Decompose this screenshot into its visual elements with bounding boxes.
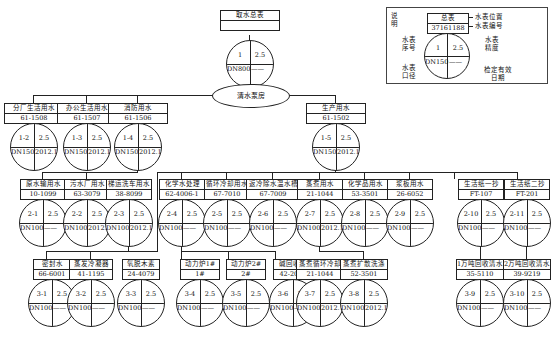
meter-label: 污水厂用水 63-3079	[64, 179, 110, 200]
meter-date: ——	[228, 225, 248, 232]
meter-size: DN800	[227, 66, 250, 73]
meter-label: 动力炉2# 2#	[226, 259, 266, 280]
meter-label: 浆板用水 26-6052	[387, 179, 433, 200]
meter-label: 动力炉1# 1#	[180, 259, 220, 280]
meter-accuracy: 2.5	[321, 211, 339, 218]
meter-number: 39-9219	[504, 270, 550, 279]
meter-location: 浆板用水	[388, 180, 432, 190]
connector	[46, 251, 158, 252]
meter-location: 生产用水	[307, 104, 365, 114]
meter-circle: 1 2.5 DN800 ——	[226, 40, 274, 88]
meter-location: 1万吨回收清水	[457, 260, 503, 270]
meter-label: 1万吨回收清水 35-5110	[456, 259, 504, 280]
meter-size: DN100	[20, 225, 43, 232]
meter-number: 38-8099	[107, 190, 151, 199]
meter-seq: 3-8	[345, 291, 363, 298]
meter-number: 66-6001	[34, 270, 70, 279]
meter-circle: 1-2 2.5 DN150 2012.10.25	[10, 123, 58, 171]
meter-label: 生产用水 61-1502	[306, 103, 366, 124]
meter-label: 梯运洗车用水 38-8099	[106, 179, 152, 200]
meter-location: 取水总表	[221, 11, 279, 21]
connector	[454, 172, 455, 179]
meter-size: DN150	[115, 149, 138, 156]
meter-size: DN100	[341, 305, 364, 312]
meter-date: ——	[366, 225, 386, 232]
meter-accuracy: 2.5	[481, 291, 499, 298]
meter-number: 10-1099	[21, 190, 65, 199]
meter-number: 26-6052	[388, 190, 432, 199]
meter-location: 梯运洗车用水	[107, 180, 151, 190]
meter-size: DN100	[118, 305, 141, 312]
meter-number: FT-107	[459, 190, 503, 199]
connector	[272, 172, 273, 179]
meter-seq: 1-2	[15, 135, 33, 142]
meter-label: 化学品用水 53-3501	[342, 179, 388, 200]
meter-accuracy: 2.5	[201, 291, 219, 298]
meter-seq: 3-4	[181, 291, 199, 298]
legend-box: 说明 总表 37161188 1 2.5 DN150 —— 水表位置 水表编号 …	[386, 7, 548, 84]
meter-seq: 1	[429, 45, 447, 52]
meter-circle: 1-5 2.5 DN150 2012.10.25	[312, 123, 360, 171]
water-meter-network-diagram: 取水总表 1 2.5 DN800 —— 清水泵房 分厂生活用水 61-1508 …	[0, 0, 559, 337]
meter-seq: 2-10	[462, 211, 480, 218]
meter-circle: 3-8 2.5 DN100 2012.10.26	[340, 279, 388, 327]
meter-number	[221, 21, 279, 30]
meter-number: 24-4079	[123, 270, 159, 279]
meter-size: DN100	[270, 305, 293, 312]
meter-date: 2012.10.21	[321, 225, 341, 232]
meter-circle: 2-7 2.5 DN100 2012.10.21	[296, 199, 344, 247]
meter-date: 2012.10.21	[130, 225, 150, 232]
meter-number: 21-1044	[298, 190, 342, 199]
meter-size: DN100	[68, 305, 91, 312]
meter-size: DN100	[504, 225, 527, 232]
meter-accuracy: 2.5	[411, 211, 429, 218]
connector	[86, 95, 87, 103]
meter-circle: 2-9 2.5 DN100 ——	[386, 199, 434, 247]
meter-accuracy: 2.5	[44, 211, 62, 218]
meter-label: 蒸煮扩散洗涤 52-3501	[340, 259, 388, 280]
meter-date: ——	[247, 305, 267, 312]
meter-date: 2012.10.25	[35, 149, 55, 156]
meter-location: 原水输用水	[21, 180, 65, 190]
legend-size-note: 水表口径	[402, 64, 416, 80]
meter-accuracy: 2.5	[365, 291, 383, 298]
connector	[181, 172, 182, 179]
meter-number: 21-1044	[297, 270, 343, 279]
legend-seq-note: 水表序号	[402, 36, 416, 52]
meter-size: DN150	[313, 149, 336, 156]
connector	[86, 172, 87, 179]
connector	[228, 251, 229, 259]
meter-circle: 3-5 2.5 DN100 ——	[222, 279, 270, 327]
meter-size: DN100	[159, 225, 182, 232]
connector	[319, 251, 363, 252]
meter-label: 化学水处理 62-4006-1	[159, 179, 205, 200]
connector	[42, 172, 138, 173]
meter-circle: 3-4 2.5 DN100 ——	[176, 279, 224, 327]
meter-location: 2万吨回收清水	[504, 260, 550, 270]
meter-label: 氧脱木素 24-4079	[122, 259, 160, 280]
legend-verify-date-note: 检定有效日期	[483, 66, 513, 82]
meter-number: 67-7009	[247, 190, 299, 199]
meter-number: 41-1195	[70, 270, 112, 279]
meter-accuracy: 2.5	[366, 211, 384, 218]
meter-size: DN150	[425, 59, 448, 66]
meter-number: 2#	[227, 270, 265, 279]
meter-number: FT-201	[505, 190, 549, 199]
meter-seq: 3-9	[461, 291, 479, 298]
meter-seq: 2-8	[346, 211, 364, 218]
meter-circle: 3-3 2.5 DN100 ——	[117, 279, 165, 327]
meter-accuracy: 2.5	[92, 291, 110, 298]
meter-accuracy: 2.5	[35, 135, 53, 142]
meter-size: DN100	[29, 305, 52, 312]
meter-size: DN150	[64, 149, 87, 156]
connector	[363, 251, 364, 259]
connector	[137, 95, 138, 103]
meter-seq: 2-7	[301, 211, 319, 218]
meter-accuracy: 2.5	[228, 211, 246, 218]
pump-house-node[interactable]: 清水泵房	[212, 84, 290, 108]
meter-circle: 2-8 2.5 DN100 ——	[341, 199, 389, 247]
meter-label: 消防用水 61-1506	[108, 103, 168, 124]
meter-seq: 3-6	[274, 291, 292, 298]
meter-accuracy: 2.5	[321, 291, 339, 298]
meter-number: 35-5110	[457, 270, 503, 279]
